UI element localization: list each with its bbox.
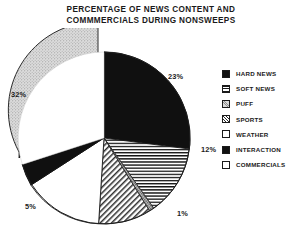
legend-label-hard-news: HARD NEWS — [236, 70, 276, 77]
slice-label-soft-news: 12% — [201, 145, 216, 154]
legend-label-interaction: INTERACTION — [236, 146, 281, 153]
pie-svg — [0, 28, 208, 230]
legend-label-weather: WEATHER — [236, 131, 269, 138]
legend-item-puff: PUFF — [222, 96, 302, 111]
legend-swatch-hard-news-icon — [222, 70, 230, 78]
pie-chart-figure: PERCENTAGE OF NEWS CONTENT AND COMMMERCI… — [0, 0, 302, 230]
chart-title-line-2: COMMMERCIALS DURING NONSWEEPS — [0, 15, 302, 26]
legend-item-sports: SPORTS — [222, 112, 302, 127]
legend-label-sports: SPORTS — [236, 116, 263, 123]
legend-label-commercials: COMMERCIALS — [236, 161, 286, 168]
legend-swatch-interaction-icon — [222, 146, 230, 154]
legend-item-soft-news: SOFT NEWS — [222, 81, 302, 96]
pie-slice-hard-news — [104, 52, 190, 149]
legend-label-puff: PUFF — [236, 100, 253, 107]
legend-label-soft-news: SOFT NEWS — [236, 85, 275, 92]
legend-swatch-weather-icon — [222, 130, 230, 138]
legend-item-hard-news: HARD NEWS — [222, 66, 302, 81]
slice-label-puff: 1% — [177, 209, 188, 218]
chart-title-line-1: PERCENTAGE OF NEWS CONTENT AND — [0, 4, 302, 15]
slice-label-commercials: 32% — [11, 90, 26, 99]
legend-swatch-soft-news-icon — [222, 85, 230, 93]
pie-plot-area: 23% 12% 1% 15% 12% 5% 32% — [0, 28, 208, 230]
legend-item-commercials: COMMERCIALS — [222, 157, 302, 172]
legend-item-interaction: INTERACTION — [222, 142, 302, 157]
legend-swatch-sports-icon — [222, 115, 230, 123]
legend-swatch-puff-icon — [222, 100, 230, 108]
slice-label-hard-news: 23% — [168, 72, 183, 81]
slice-label-interaction: 5% — [25, 202, 36, 211]
legend-swatch-commercials-icon — [222, 161, 230, 169]
legend-item-weather: WEATHER — [222, 127, 302, 142]
chart-title: PERCENTAGE OF NEWS CONTENT AND COMMMERCI… — [0, 4, 302, 26]
chart-legend: HARD NEWS SOFT NEWS PUFF SPORTS WEATHER … — [222, 66, 302, 172]
